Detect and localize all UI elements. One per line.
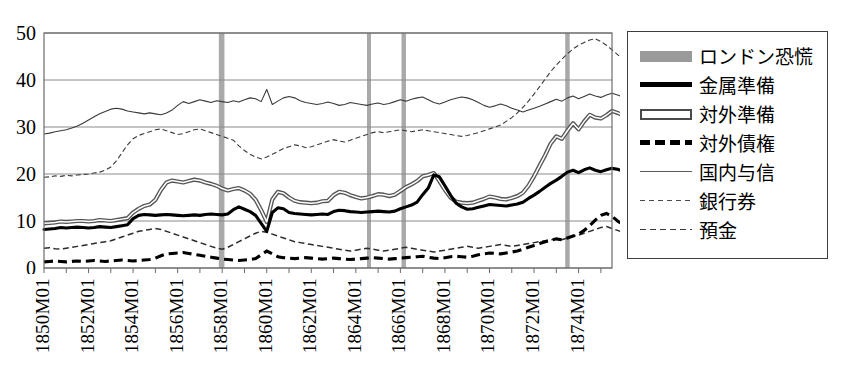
legend-item-1[interactable]: 金属準備 bbox=[628, 70, 827, 99]
x-axis-label-1872: 1872M01 bbox=[523, 278, 542, 353]
x-axis-label-1866: 1866M01 bbox=[389, 278, 408, 353]
x-axis-label-1860: 1860M01 bbox=[256, 278, 275, 353]
crisis-band-3 bbox=[565, 33, 569, 268]
x-axis-label-1874: 1874M01 bbox=[568, 278, 587, 353]
legend-key-foreign-claims bbox=[640, 136, 692, 150]
legend-label-4: 国内与信 bbox=[699, 158, 775, 185]
y-tick-label-10: 10 bbox=[16, 210, 36, 232]
chart-legend: ロンドン恐慌金属準備対外準備対外債権国内与信銀行券預金 bbox=[627, 31, 828, 259]
crisis-band-0 bbox=[219, 33, 225, 268]
x-axis-label-1862: 1862M01 bbox=[300, 278, 319, 353]
legend-key-domestic-credit-swatch bbox=[640, 171, 692, 173]
x-axis-label-1850: 1850M01 bbox=[33, 278, 52, 353]
legend-label-6: 預金 bbox=[699, 216, 737, 243]
crisis-band-1 bbox=[367, 33, 371, 268]
legend-key-banknotes-swatch bbox=[640, 200, 692, 201]
legend-key-deposits-swatch bbox=[640, 229, 692, 231]
legend-item-6[interactable]: 預金 bbox=[628, 215, 827, 244]
series-group bbox=[44, 39, 620, 262]
legend-key-metallic-reserve-swatch bbox=[640, 82, 692, 87]
legend-key-metallic-reserve bbox=[640, 78, 692, 92]
x-axis-label-1856: 1856M01 bbox=[167, 278, 186, 353]
y-tick-label-0: 0 bbox=[26, 257, 36, 274]
plot-frame bbox=[44, 33, 612, 268]
legend-label-2: 対外準備 bbox=[699, 100, 775, 127]
legend-item-3[interactable]: 対外債権 bbox=[628, 128, 827, 157]
legend-key-domestic-credit bbox=[640, 165, 692, 179]
y-tick-label-20: 20 bbox=[16, 163, 36, 185]
gridlines-group bbox=[44, 33, 612, 268]
plot-border bbox=[44, 33, 612, 268]
x-axis-label-1854: 1854M01 bbox=[122, 278, 141, 353]
cropped-header-text bbox=[0, 0, 844, 13]
x-axis-label-1852: 1852M01 bbox=[78, 278, 97, 353]
legend-item-4[interactable]: 国内与信 bbox=[628, 157, 827, 186]
x-axis-label-1870: 1870M01 bbox=[478, 278, 497, 353]
legend-label-3: 対外債権 bbox=[699, 129, 775, 156]
series-foreign-reserve-outer bbox=[44, 111, 620, 223]
series-foreign-reserve-inner bbox=[44, 111, 620, 223]
x-ticks-group bbox=[44, 268, 601, 273]
legend-label-5: 銀行券 bbox=[699, 187, 756, 214]
crisis-bands-group bbox=[219, 33, 570, 268]
legend-key-foreign-reserve bbox=[640, 107, 692, 121]
crisis-band-2 bbox=[402, 33, 406, 268]
x-axis-label-1868: 1868M01 bbox=[434, 278, 453, 353]
y-tick-label-50: 50 bbox=[16, 22, 36, 44]
y-tick-label-30: 30 bbox=[16, 116, 36, 138]
legend-key-london-panic bbox=[640, 49, 692, 63]
legend-key-deposits bbox=[640, 223, 692, 237]
x-axis-labels: 1850M011852M011854M011856M011858M011860M… bbox=[0, 274, 620, 382]
legend-label-1: 金属準備 bbox=[699, 71, 775, 98]
y-axis-labels: 01020304050 bbox=[16, 22, 36, 274]
legend-label-0: ロンドン恐慌 bbox=[699, 42, 813, 69]
line-chart-svg: 01020304050 bbox=[0, 16, 620, 274]
legend-key-foreign-reserve-swatch bbox=[640, 109, 692, 120]
legend-item-0[interactable]: ロンドン恐慌 bbox=[628, 41, 827, 70]
chart-plot-area: 01020304050 bbox=[0, 16, 620, 274]
x-axis-label-1864: 1864M01 bbox=[345, 278, 364, 353]
x-axis-label-1858: 1858M01 bbox=[211, 278, 230, 353]
y-tick-label-40: 40 bbox=[16, 69, 36, 91]
series-deposits bbox=[44, 225, 620, 252]
legend-item-5[interactable]: 銀行券 bbox=[628, 186, 827, 215]
chart-page: 01020304050 1850M011852M011854M011856M01… bbox=[0, 0, 844, 382]
legend-item-2[interactable]: 対外準備 bbox=[628, 99, 827, 128]
legend-key-foreign-claims-swatch bbox=[640, 140, 692, 145]
legend-key-banknotes bbox=[640, 194, 692, 208]
legend-key-london-panic-swatch bbox=[640, 51, 692, 62]
series-domestic_credit bbox=[44, 81, 620, 134]
